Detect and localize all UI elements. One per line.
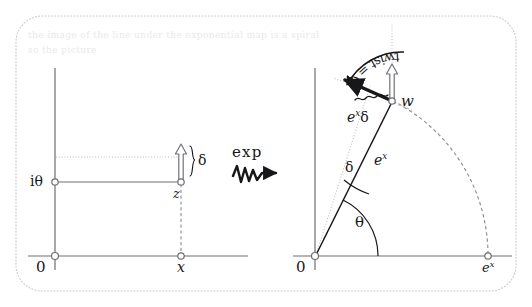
right-w-label: w bbox=[401, 94, 414, 109]
right-panel-group: twist = θ bbox=[293, 24, 512, 270]
right-scaled-delta-label: exδ bbox=[347, 110, 369, 124]
right-scaled-delta-tail: δ bbox=[360, 109, 368, 125]
left-delta-brace bbox=[190, 146, 195, 176]
right-delta-angle-label: δ bbox=[345, 160, 353, 174]
figure-container: the image of the line under the exponent… bbox=[0, 0, 532, 307]
diagram-canvas: twist = θ bbox=[0, 0, 532, 307]
right-radius-label: ex bbox=[374, 153, 387, 167]
left-z-label: z bbox=[173, 187, 180, 200]
left-node-itheta bbox=[52, 179, 58, 185]
exp-map-label: exp bbox=[232, 145, 263, 160]
right-node-ex bbox=[485, 253, 491, 259]
left-panel-group bbox=[28, 68, 248, 270]
right-radius-label-exponent: x bbox=[382, 151, 387, 161]
left-node-z bbox=[178, 179, 184, 185]
right-ex-axis-label: ex bbox=[482, 261, 494, 274]
squiggly-arrow-icon bbox=[233, 166, 276, 182]
right-ex-axis-label-exponent: x bbox=[490, 260, 495, 269]
right-theta-label: θ bbox=[355, 215, 364, 230]
left-origin-label: 0 bbox=[36, 260, 46, 275]
right-ex-axis-label-base: e bbox=[482, 260, 490, 275]
right-radius-arc bbox=[393, 101, 488, 256]
left-node-origin bbox=[52, 253, 59, 260]
right-node-origin bbox=[312, 253, 319, 260]
right-node-w bbox=[389, 98, 395, 104]
left-delta-arrow bbox=[175, 144, 186, 180]
left-x-label: x bbox=[177, 260, 185, 274]
left-delta-label: δ bbox=[198, 153, 206, 167]
exp-map-arrow-group bbox=[233, 166, 276, 182]
right-origin-label: 0 bbox=[296, 260, 306, 275]
figure-border bbox=[16, 16, 516, 291]
left-itheta-label: iθ bbox=[30, 174, 43, 188]
